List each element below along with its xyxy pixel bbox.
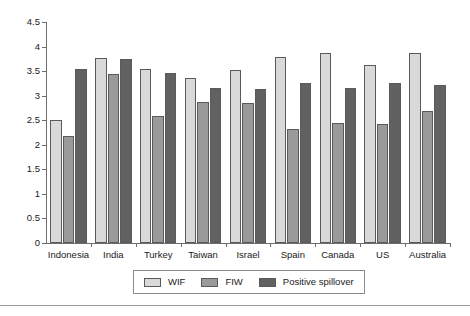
legend-label: FIW: [225, 277, 242, 287]
bar: [108, 74, 120, 243]
legend-swatch: [144, 278, 161, 287]
bar: [275, 57, 287, 243]
legend-swatch: [201, 278, 218, 287]
plot-area: 00.511.522.533.544.5 IndonesiaIndiaTurke…: [46, 22, 450, 243]
x-tick-label: Turkey: [144, 250, 173, 260]
bar: [63, 136, 75, 243]
x-tick-mark: [181, 243, 182, 247]
bar-group: [270, 22, 315, 243]
legend-entry: Positive spillover: [259, 277, 354, 287]
bar: [300, 83, 312, 243]
chart-figure: 00.511.522.533.544.5 IndonesiaIndiaTurke…: [0, 0, 470, 316]
bar: [434, 85, 446, 243]
x-tick-mark: [405, 243, 406, 247]
y-tick-label: 2.5: [27, 115, 40, 125]
x-tick-mark: [226, 243, 227, 247]
bar: [255, 89, 267, 243]
bar-group: [46, 22, 91, 243]
bar: [389, 83, 401, 243]
legend-label: WIF: [168, 277, 185, 287]
bar: [332, 123, 344, 243]
x-tick-mark: [315, 243, 316, 247]
bar: [230, 70, 242, 243]
x-tick-mark: [136, 243, 137, 247]
y-tick-mark: [42, 243, 46, 244]
bar: [185, 78, 197, 244]
bar: [50, 120, 62, 243]
y-tick-label: 4.5: [27, 17, 40, 27]
bar-group: [181, 22, 226, 243]
x-tick-label: Taiwan: [188, 250, 218, 260]
bar: [320, 53, 332, 243]
bar: [197, 102, 209, 243]
y-tick-label: 0: [35, 238, 40, 248]
bottom-divider: [0, 305, 470, 306]
legend-swatch: [259, 278, 276, 287]
bar: [165, 73, 177, 243]
bar-group: [405, 22, 450, 243]
y-tick-label: 4: [35, 42, 40, 52]
bar: [364, 65, 376, 243]
legend-label: Positive spillover: [283, 277, 354, 287]
x-tick-label: US: [376, 250, 389, 260]
x-tick-label: Indonesia: [48, 250, 89, 260]
x-tick-label: India: [103, 250, 124, 260]
legend-entry: FIW: [201, 277, 242, 287]
bar: [422, 111, 434, 243]
bar-group: [136, 22, 181, 243]
x-tick-label: Australia: [409, 250, 446, 260]
bar: [152, 116, 164, 243]
x-tick-mark: [91, 243, 92, 247]
bar-group: [226, 22, 271, 243]
y-tick-label: 2: [35, 140, 40, 150]
bar: [75, 69, 87, 243]
bar: [140, 69, 152, 243]
bar: [409, 53, 421, 243]
bar-group: [91, 22, 136, 243]
x-tick-mark: [360, 243, 361, 247]
x-tick-label: Israel: [236, 250, 259, 260]
bar: [120, 59, 132, 243]
bar: [95, 58, 107, 243]
y-tick-label: 1: [35, 189, 40, 199]
x-tick-mark: [450, 243, 451, 247]
x-tick-mark: [270, 243, 271, 247]
x-tick-label: Spain: [281, 250, 305, 260]
y-tick-label: 0.5: [27, 214, 40, 224]
bar: [377, 124, 389, 243]
bar-group: [315, 22, 360, 243]
y-tick-label: 1.5: [27, 165, 40, 175]
chart-legend: WIFFIWPositive spillover: [133, 270, 365, 294]
bar-group: [360, 22, 405, 243]
legend-entry: WIF: [144, 277, 185, 287]
x-axis-line: [46, 243, 450, 244]
bar: [242, 103, 254, 243]
bar: [345, 88, 357, 243]
x-tick-label: Canada: [321, 250, 354, 260]
y-tick-label: 3.5: [27, 66, 40, 76]
bar: [210, 88, 222, 243]
bar: [287, 129, 299, 243]
y-tick-label: 3: [35, 91, 40, 101]
